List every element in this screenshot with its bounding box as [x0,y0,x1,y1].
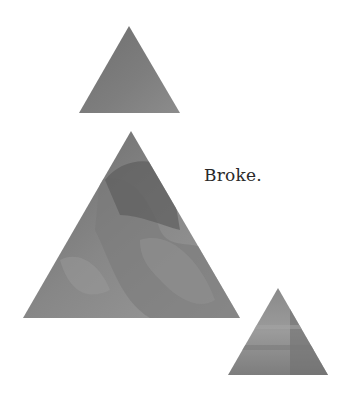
triangle-top [79,26,180,113]
triangle-middle [23,131,240,318]
caption-text: Broke. [204,165,262,185]
triangle-collage [0,0,347,397]
triangle-bottom [228,288,330,378]
